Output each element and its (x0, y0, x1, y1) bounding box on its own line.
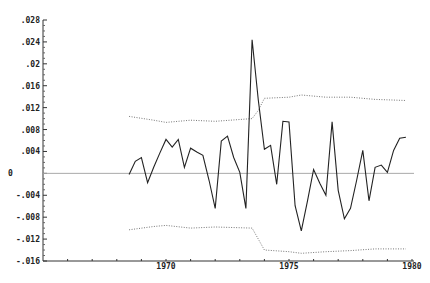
x-tick-label: 1970 (156, 262, 175, 271)
y-tick-label: .012 (21, 104, 40, 113)
y-tick-label: -.016 (16, 257, 40, 266)
y-tick-label: .004 (21, 147, 40, 156)
x-axis: 197019751980 (43, 259, 422, 271)
y-tick-label: .028 (21, 16, 40, 25)
x-tick-label: 1975 (279, 262, 298, 271)
x-tick-label: 1980 (402, 262, 421, 271)
data-series-line (129, 40, 406, 231)
y-tick-label: .024 (21, 38, 40, 47)
y-axis: .028.024.02.016.012.008.0040-.004-.008-.… (8, 16, 47, 266)
y-tick-label: .02 (26, 60, 41, 69)
y-tick-label: 0 (8, 169, 13, 178)
line-chart: .028.024.02.016.012.008.0040-.004-.008-.… (0, 0, 430, 283)
y-tick-label: -.008 (16, 213, 40, 222)
y-tick-label: -.004 (16, 191, 40, 200)
y-tick-label: .008 (21, 126, 40, 135)
lower-confidence-band (129, 225, 406, 253)
upper-confidence-band (129, 95, 406, 122)
y-tick-label: -.012 (16, 235, 40, 244)
y-tick-label: .016 (21, 82, 40, 91)
